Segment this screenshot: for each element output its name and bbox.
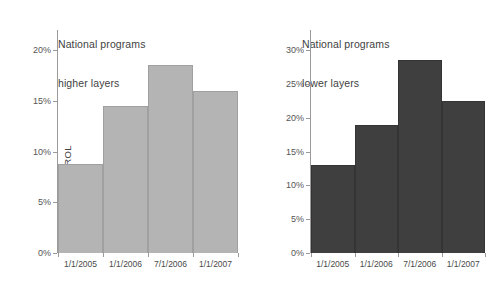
bar-slot[interactable] <box>193 30 238 253</box>
x-tick-label: 1/1/2006 <box>103 259 148 269</box>
y-tick <box>306 118 310 119</box>
y-tick <box>53 202 57 203</box>
x-tick <box>355 253 356 257</box>
bar[interactable] <box>193 91 238 253</box>
bar[interactable] <box>442 101 486 253</box>
x-tick-label: 1/1/2007 <box>193 259 238 269</box>
y-tick <box>53 101 57 102</box>
bar-slot[interactable] <box>148 30 193 253</box>
y-tick-label: 0% <box>291 248 304 258</box>
bar[interactable] <box>355 125 399 253</box>
y-tick-label: 10% <box>286 180 304 190</box>
bar[interactable] <box>148 65 193 253</box>
bar-group-higher-layers <box>58 30 238 253</box>
x-tick <box>148 253 149 257</box>
x-tick <box>485 253 486 257</box>
y-tick-label: 15% <box>33 96 51 106</box>
x-tick-label: 1/1/2005 <box>58 259 103 269</box>
bar-slot[interactable] <box>103 30 148 253</box>
x-axis-labels-higher-layers: 1/1/20051/1/20067/1/20061/1/2007 <box>58 259 238 269</box>
y-tick <box>306 253 310 254</box>
x-tick-label: 1/1/2006 <box>355 259 399 269</box>
y-tick-label: 20% <box>286 113 304 123</box>
y-tick <box>53 253 57 254</box>
y-tick-label: 25% <box>286 79 304 89</box>
x-tick <box>58 253 59 257</box>
bar[interactable] <box>58 164 103 253</box>
bar[interactable] <box>103 106 148 253</box>
y-tick-label: 5% <box>38 197 51 207</box>
y-tick <box>53 50 57 51</box>
bar-slot[interactable] <box>355 30 399 253</box>
bar[interactable] <box>311 165 355 253</box>
y-tick-label: 0% <box>38 248 51 258</box>
x-tick <box>238 253 239 257</box>
x-tick <box>398 253 399 257</box>
bar-slot[interactable] <box>311 30 355 253</box>
y-tick <box>306 152 310 153</box>
plot-area-higher-layers: ROL 0%5%10%15%20% 1/1/20051/1/20067/1/20… <box>57 30 238 253</box>
x-tick-label: 1/1/2005 <box>311 259 355 269</box>
y-tick-label: 30% <box>286 45 304 55</box>
y-tick-label: 20% <box>33 45 51 55</box>
x-tick-label: 7/1/2006 <box>148 259 193 269</box>
plot-area-lower-layers: 0%5%10%15%20%25%30% 1/1/20051/1/20067/1/… <box>310 30 485 253</box>
figure-canvas: National programs higher layers ROL 0%5%… <box>0 0 492 291</box>
y-tick <box>306 50 310 51</box>
x-axis-labels-lower-layers: 1/1/20051/1/20067/1/20061/1/2007 <box>311 259 485 269</box>
y-tick <box>306 219 310 220</box>
chart-panel-higher-layers: National programs higher layers ROL 0%5%… <box>0 0 246 291</box>
x-tick <box>311 253 312 257</box>
bar-slot[interactable] <box>398 30 442 253</box>
bar-slot[interactable] <box>58 30 103 253</box>
y-tick <box>306 84 310 85</box>
x-tick <box>193 253 194 257</box>
y-tick <box>306 185 310 186</box>
x-tick <box>442 253 443 257</box>
x-tick-label: 1/1/2007 <box>442 259 486 269</box>
bar-slot[interactable] <box>442 30 486 253</box>
x-tick <box>103 253 104 257</box>
y-tick-label: 10% <box>33 147 51 157</box>
x-tick-group-right <box>311 253 485 257</box>
y-tick <box>53 152 57 153</box>
bar-group-lower-layers <box>311 30 485 253</box>
bar[interactable] <box>398 60 442 253</box>
y-tick-label: 5% <box>291 214 304 224</box>
y-tick-label: 15% <box>286 147 304 157</box>
x-tick-label: 7/1/2006 <box>398 259 442 269</box>
x-tick-group-left <box>58 253 238 257</box>
